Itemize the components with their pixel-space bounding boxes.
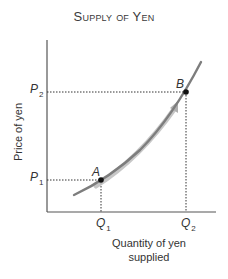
x-tick-q1: Q1	[96, 216, 111, 230]
point-a-label: A	[92, 165, 100, 179]
y-tick-p1: P1	[30, 170, 43, 184]
x-axis-label-line2: supplied	[94, 250, 204, 264]
point-b	[183, 89, 189, 95]
point-b-label: B	[176, 77, 184, 91]
x-axis-label: Quantity of yen supplied	[94, 236, 204, 264]
y-tick-p2: P2	[30, 82, 43, 96]
y-axis-label: Price of yen	[12, 92, 24, 172]
x-axis-label-line1: Quantity of yen	[94, 236, 204, 250]
x-tick-q2: Q2	[181, 216, 196, 230]
